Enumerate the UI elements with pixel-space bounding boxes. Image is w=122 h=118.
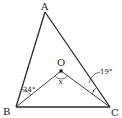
label-c: C xyxy=(111,107,119,118)
angle-label-x: x xyxy=(59,77,64,86)
label-b: B xyxy=(3,106,10,117)
geometry-diagram: A B C O 34° 19° x xyxy=(0,0,122,118)
label-o: O xyxy=(57,57,65,68)
segment-ac xyxy=(45,12,110,107)
angle-label-b: 34° xyxy=(23,86,35,94)
angle-mark-c xyxy=(93,90,95,92)
angle-label-c: 19° xyxy=(100,68,112,76)
label-a: A xyxy=(40,1,49,12)
angle-leader-c xyxy=(89,72,100,83)
point-o-marker xyxy=(60,70,63,73)
segment-oc xyxy=(61,71,110,107)
